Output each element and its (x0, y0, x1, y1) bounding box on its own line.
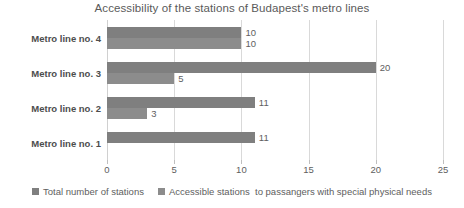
category-label: Metro line no. 4 (31, 32, 101, 43)
bar-accessible: 5 (107, 73, 174, 84)
category-row: Metro line no. 2113 (107, 90, 443, 125)
gridline (443, 20, 444, 160)
bar-value-label: 11 (259, 132, 269, 143)
category-row: Metro line no. 41010 (107, 20, 443, 55)
legend-label: Total number of stations (43, 186, 144, 197)
legend-item[interactable]: Total number of stations (32, 186, 144, 197)
bar-total: 11 (107, 132, 255, 143)
legend-swatch-icon (158, 188, 165, 195)
x-axis: 0510152025 (107, 160, 443, 178)
bar-value-label: 10 (245, 27, 256, 38)
bar-total: 10 (107, 27, 241, 38)
bar-chart: Accessibility of the stations of Budapes… (0, 0, 464, 208)
category-label: Metro line no. 1 (31, 137, 101, 148)
x-axis-tick-label: 0 (104, 164, 109, 175)
bar-total: 20 (107, 62, 376, 73)
x-axis-tick-label: 5 (172, 164, 177, 175)
chart-title: Accessibility of the stations of Budapes… (0, 2, 464, 14)
x-axis-tick-label: 10 (236, 164, 247, 175)
bar-accessible: 3 (107, 108, 147, 119)
plot-area: Metro line no. 111Metro line no. 2113Met… (107, 20, 443, 160)
category-label: Metro line no. 2 (31, 102, 101, 113)
bar-value-label: 5 (178, 73, 183, 84)
bar-value-label: 10 (245, 38, 256, 49)
legend-swatch-icon (32, 188, 39, 195)
bar-value-label: 11 (259, 97, 269, 108)
category-row: Metro line no. 3205 (107, 55, 443, 90)
legend-label: Accessible stations to passangers with s… (169, 186, 432, 197)
category-label: Metro line no. 3 (31, 67, 101, 78)
x-axis-tick-label: 25 (438, 164, 449, 175)
bar-value-label: 3 (151, 108, 156, 119)
legend-item[interactable]: Accessible stations to passangers with s… (158, 186, 432, 197)
category-row: Metro line no. 111 (107, 125, 443, 160)
bar-total: 11 (107, 97, 255, 108)
x-axis-tick-label: 15 (303, 164, 314, 175)
chart-legend: Total number of stationsAccessible stati… (0, 186, 464, 197)
bar-accessible: 10 (107, 38, 241, 49)
bar-value-label: 20 (380, 62, 391, 73)
x-axis-tick-label: 20 (371, 164, 382, 175)
